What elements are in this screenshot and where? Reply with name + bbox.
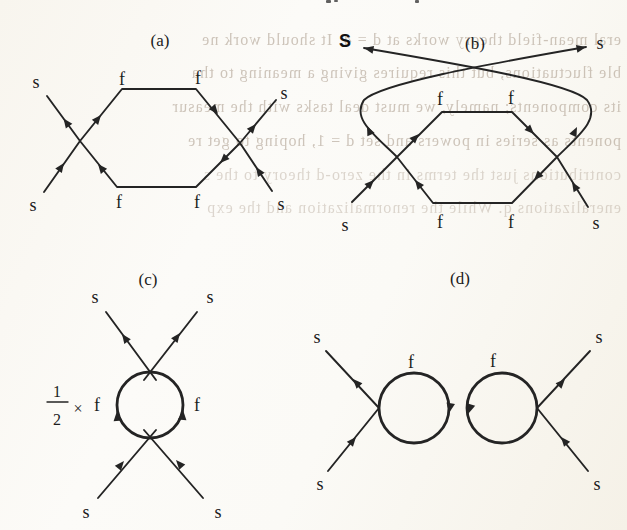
arrowhead (113, 411, 122, 422)
fermion-loop-hexagon (397, 112, 557, 203)
scalar-label: s (595, 327, 602, 347)
scalar-label: s (214, 502, 221, 522)
diagram-c: (c) 1 2 × f f s s s s (47, 270, 222, 522)
fermion-loop-circle-right (467, 373, 537, 443)
fermion-label: f (408, 352, 414, 372)
scalar-label: s (29, 195, 36, 215)
fermion-label: f (195, 68, 201, 88)
diagram-b: (b) f f f f S s s s (339, 31, 604, 235)
scalar-line-out-topright (144, 312, 197, 380)
scalar-label: s (316, 474, 323, 494)
scalar-line-out-topright (240, 100, 276, 143)
fermion-label: f (194, 395, 200, 415)
fermion-label: f (508, 88, 514, 108)
diagram-a-caption: (a) (151, 31, 170, 50)
fermion-loop-hexagon (80, 89, 240, 187)
scalar-label-bold: S (339, 31, 351, 51)
scalar-label: s (341, 215, 348, 235)
fermion-label: f (116, 192, 122, 212)
prefactor-numerator: 1 (53, 383, 61, 400)
fermion-loop-circle-left (379, 373, 449, 443)
fermion-label: f (194, 192, 200, 212)
fermion-label: f (490, 351, 496, 371)
scan-speck (415, 0, 419, 3)
scalar-line-crossed-right (364, 48, 591, 157)
scalar-line-in-bottomright (557, 157, 588, 207)
arrowhead (253, 165, 265, 177)
diagram-c-caption: (c) (139, 270, 158, 289)
scalar-label: s (32, 72, 39, 92)
multiplication-sign: × (73, 400, 82, 417)
scalar-line-in-bottomleft (98, 430, 156, 498)
arrowhead (178, 410, 187, 421)
diagram-b-caption: (b) (465, 34, 485, 53)
diagram-d-caption: (d) (450, 269, 470, 288)
fermion-label: f (437, 89, 443, 109)
diagram-a: (a) f f f f s s s s (29, 31, 287, 215)
scalar-label: s (593, 474, 600, 494)
scalar-line-out-topleft (106, 312, 156, 380)
scalar-label: s (277, 194, 284, 214)
scalar-line-in-bottomright (144, 430, 203, 498)
feynman-diagrams-figure: (a) f f f f s s s s (b) (0, 0, 627, 530)
scalar-line-in-bottomleft (352, 157, 397, 202)
fermion-label: f (508, 212, 514, 232)
fermion-label: f (437, 212, 443, 232)
fermion-label: f (119, 69, 125, 89)
scalar-label: s (82, 502, 89, 522)
fermion-loop-circle (117, 372, 183, 438)
fermion-label: f (94, 395, 100, 415)
scalar-line-crossed-left (360, 47, 586, 157)
scalar-label: s (280, 83, 287, 103)
scan-speck (326, 0, 331, 3)
scan-speck (334, 0, 338, 2)
scalar-label: s (592, 213, 599, 233)
scalar-line-out-left (326, 351, 379, 408)
scalar-label: s (596, 33, 603, 53)
scalar-label: s (91, 287, 98, 307)
diagram-d: (d) f f s s s s (313, 269, 602, 494)
arrowhead (173, 457, 185, 469)
prefactor-denominator: 2 (53, 411, 61, 428)
scalar-line-out-right (537, 351, 590, 408)
scalar-label: s (206, 287, 213, 307)
scalar-label: s (313, 327, 320, 347)
arrowhead (464, 403, 475, 415)
